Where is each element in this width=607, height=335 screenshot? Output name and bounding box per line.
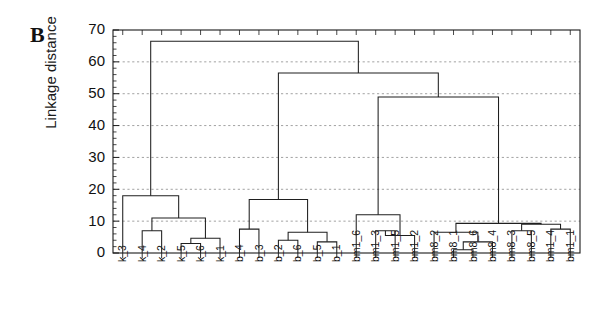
dendrogram-link xyxy=(152,218,206,238)
y-tick-label: 20 xyxy=(88,180,105,197)
y-tick-label: 50 xyxy=(88,84,105,101)
y-tick-label: 30 xyxy=(88,148,105,165)
dendrogram-link xyxy=(151,41,359,196)
dendrogram-figure: B Linkage distance 010203040506070k_3k_4… xyxy=(0,0,607,335)
dendrogram-link xyxy=(278,73,438,199)
x-tick-label: bm8_1 xyxy=(447,230,459,262)
y-tick-label: 40 xyxy=(88,116,105,133)
dendrogram-link xyxy=(123,196,179,253)
plot-frame xyxy=(113,30,580,253)
y-tick-label: 0 xyxy=(97,243,105,260)
y-tick-label: 60 xyxy=(88,52,105,69)
dendrogram-link xyxy=(378,97,498,223)
y-tick-label: 10 xyxy=(88,212,105,229)
dendrogram-plot: 010203040506070k_3k_4k_2k_5k_6k_1b_4b_3b… xyxy=(0,0,607,335)
y-tick-label: 70 xyxy=(88,20,105,37)
x-tick-label: bm8_6 xyxy=(467,230,479,262)
dendrogram-link xyxy=(249,199,307,232)
dendrogram-link xyxy=(522,224,561,230)
